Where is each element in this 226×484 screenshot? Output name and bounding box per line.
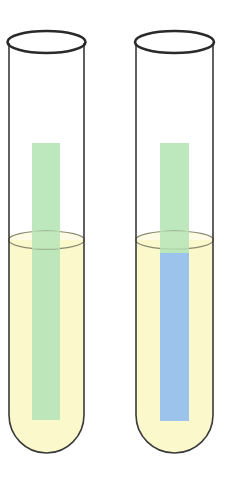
tube-rim-left bbox=[8, 31, 86, 53]
indicator-strip-left bbox=[32, 143, 60, 420]
test-tubes-diagram bbox=[0, 0, 226, 484]
indicator-strip-right-lower bbox=[160, 253, 189, 421]
tube-rim-right bbox=[135, 31, 214, 53]
test-tube-right bbox=[135, 31, 214, 453]
test-tube-left bbox=[8, 31, 86, 453]
